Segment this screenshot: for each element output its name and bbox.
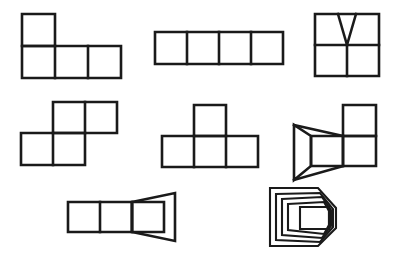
canvas-background	[0, 0, 398, 255]
figure-sheet: J tetromino I tetromino Square block wit…	[0, 0, 398, 255]
figure-canvas	[0, 0, 398, 255]
